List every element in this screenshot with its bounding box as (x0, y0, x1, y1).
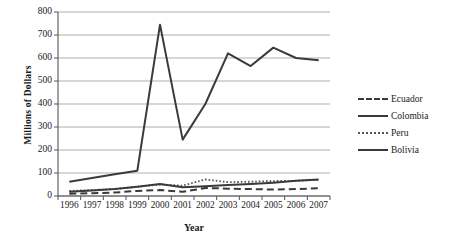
y-axis-tick-label: 800 (22, 7, 52, 17)
x-axis-title: Year (58, 222, 330, 233)
legend-item-bolivia[interactable]: Bolivia (358, 141, 452, 158)
line-chart: Millions of Dollars 80070060050040030020… (0, 0, 452, 242)
legend-line-swatch-icon (358, 128, 388, 138)
legend-item-peru[interactable]: Peru (358, 124, 452, 141)
y-axis-tick-labels: 8007006005004003002001000 (22, 0, 52, 242)
legend-line-swatch-icon (358, 111, 388, 121)
legend-item-label: Ecuador (391, 94, 423, 104)
legend-line-swatch-icon (358, 145, 388, 155)
legend-item-ecuador[interactable]: Ecuador (358, 90, 452, 107)
series-line-colombia (69, 25, 318, 182)
legend-line-swatch-icon (358, 94, 388, 104)
y-axis-tick-label: 400 (22, 99, 52, 109)
legend-item-label: Peru (391, 128, 408, 138)
legend-item-label: Colombia (391, 111, 428, 121)
y-axis-tick-label: 0 (22, 191, 52, 201)
y-axis-tick-label: 500 (22, 76, 52, 86)
legend-item-label: Bolivia (391, 145, 419, 155)
y-axis-tick-label: 200 (22, 145, 52, 155)
y-axis-tick-label: 300 (22, 122, 52, 132)
x-axis-tick-label: 2007 (306, 200, 332, 210)
chart-legend: EcuadorColombiaPeruBolivia (358, 90, 452, 158)
legend-item-colombia[interactable]: Colombia (358, 107, 452, 124)
y-axis-tick-label: 600 (22, 53, 52, 63)
y-axis-tick-label: 700 (22, 30, 52, 40)
y-axis-tick-label: 100 (22, 168, 52, 178)
